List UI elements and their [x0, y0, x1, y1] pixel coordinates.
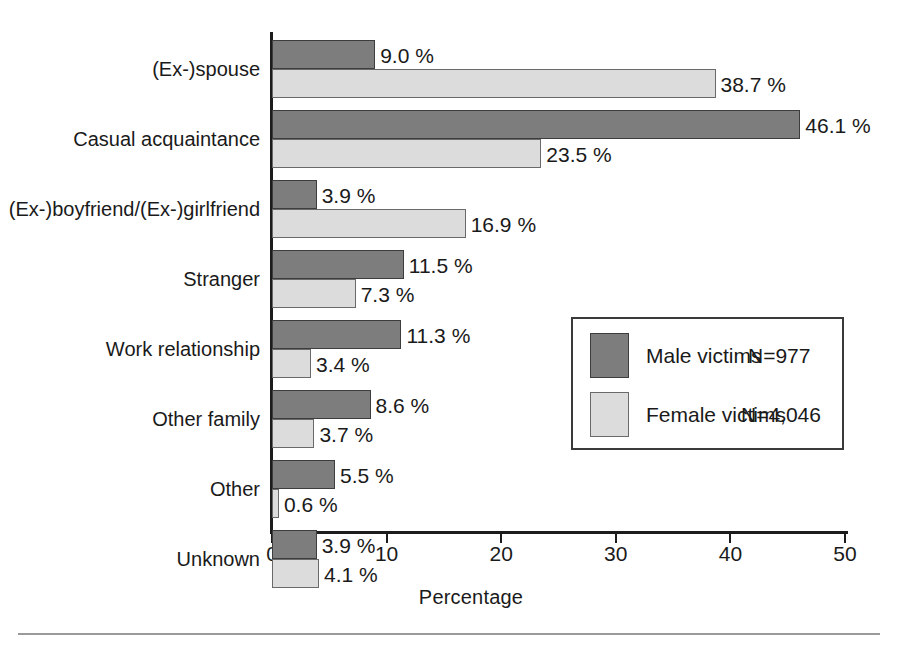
bar-value-label: 8.6 % — [376, 394, 430, 415]
x-tick-label: 50 — [833, 542, 856, 566]
legend-n-female: N=4,046 — [741, 392, 821, 437]
bar-female — [272, 69, 716, 98]
legend-box: Male victims N=977 Female victims N=4,04… — [571, 317, 844, 450]
bar-value-label: 38.7 % — [721, 73, 786, 94]
bar-male — [272, 460, 335, 489]
bar-value-label: 3.9 % — [322, 184, 376, 205]
bar-female — [272, 349, 311, 378]
bar-value-label: 0.6 % — [284, 493, 338, 514]
legend-item-male: Male victims — [590, 333, 762, 378]
x-axis-title-text: Percentage — [419, 586, 523, 609]
bar-value-label: 11.5 % — [409, 254, 473, 275]
category-label: (Ex-)boyfriend/(Ex-)girlfriend — [9, 198, 260, 220]
legend-n-male: N=977 — [748, 333, 810, 378]
category-label: Casual acquaintance — [73, 128, 260, 150]
category-label: (Ex-)spouse — [152, 58, 260, 80]
bar-male — [272, 110, 800, 139]
bar-female — [272, 209, 466, 238]
bar-female — [272, 419, 314, 448]
bar-male — [272, 180, 317, 209]
bar-value-label: 9.0 % — [380, 44, 434, 65]
x-tick-label: 40 — [719, 542, 742, 566]
bar-value-label: 46.1 % — [805, 114, 870, 135]
bar-female — [272, 489, 279, 518]
category-label: Other family — [152, 408, 260, 430]
bar-female — [272, 279, 356, 308]
x-tick-label: 10 — [375, 542, 398, 566]
category-label: Other — [210, 478, 260, 500]
bar-value-label: 4.1 % — [324, 563, 378, 584]
legend-label-male: Male victims — [646, 333, 762, 378]
category-label: Stranger — [183, 268, 260, 290]
bar-value-label: 5.5 % — [340, 464, 394, 485]
legend-swatch-male-icon — [590, 333, 629, 378]
bar-male — [272, 530, 317, 559]
footer-rule — [18, 633, 880, 635]
x-tick-label: 20 — [490, 542, 513, 566]
bar-value-label: 11.3 % — [406, 324, 470, 345]
category-label: Unknown — [177, 548, 260, 570]
bar-value-label: 3.4 % — [316, 353, 370, 374]
bar-male — [272, 320, 401, 349]
bar-female — [272, 139, 541, 168]
bar-value-label: 23.5 % — [546, 143, 611, 164]
bar-value-label: 7.3 % — [361, 283, 415, 304]
legend-swatch-female-icon — [590, 392, 629, 437]
chart-figure: 01020304050 (Ex-)spouseCasual acquaintan… — [0, 0, 898, 648]
bar-value-label: 3.9 % — [322, 534, 376, 555]
category-label: Work relationship — [106, 338, 260, 360]
bar-value-label: 3.7 % — [319, 423, 373, 444]
bar-male — [272, 40, 375, 69]
x-axis-title: Percentage — [0, 586, 898, 609]
bar-female — [272, 559, 319, 588]
bar-male — [272, 250, 404, 279]
bar-male — [272, 390, 371, 419]
x-tick-label: 30 — [604, 542, 627, 566]
bar-value-label: 16.9 % — [471, 213, 536, 234]
